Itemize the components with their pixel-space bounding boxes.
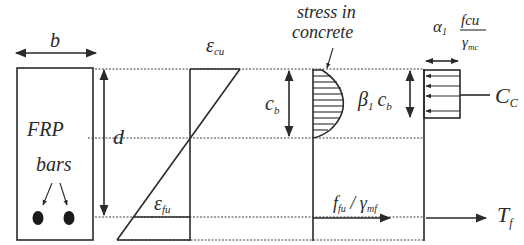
alpha-label: α1 xyxy=(433,17,447,37)
bar-pointer-arrow-left xyxy=(43,183,52,205)
block-depth-label: β1cb xyxy=(357,88,392,112)
gamma-mc-denominator: γmc xyxy=(462,34,478,52)
bar-pointer-arrow-right xyxy=(60,183,67,205)
tension-force-label: Tf xyxy=(497,202,514,230)
concrete-strain-label: εcu xyxy=(206,34,225,57)
frp-strain-label: εfu xyxy=(154,192,171,215)
width-label: b xyxy=(50,29,60,51)
frp-bar-left xyxy=(33,211,44,225)
parabolic-stress-curve xyxy=(313,70,343,138)
flexural-analysis-diagram: b FRP bars d εcu εfu stress in concrete xyxy=(0,0,524,245)
stress-hatching xyxy=(313,76,344,130)
strain-profile xyxy=(117,69,240,240)
compression-force-label: CC xyxy=(495,83,519,110)
force-diagram: α1 fcu γmc CC Tf xyxy=(424,12,519,241)
frp-label: FRP xyxy=(26,118,64,140)
bars-label: bars xyxy=(36,153,72,175)
block-arrows xyxy=(426,76,460,111)
stress-title-pointer xyxy=(327,48,333,68)
stress-title-line2: concrete xyxy=(292,22,353,42)
frp-stress-label: ffu / γmf xyxy=(333,193,378,214)
depth-label: d xyxy=(113,124,125,149)
fcu-numerator: fcu xyxy=(461,12,479,28)
frp-bar-right xyxy=(64,211,75,225)
cross-section: b FRP bars d xyxy=(16,29,125,240)
stress-diagram: stress in concrete cb β1cb ffu / γmf xyxy=(265,2,410,241)
stress-title-line1: stress in xyxy=(297,2,356,22)
neutral-axis-depth-label: cb xyxy=(265,92,280,116)
reference-lines xyxy=(88,69,424,240)
